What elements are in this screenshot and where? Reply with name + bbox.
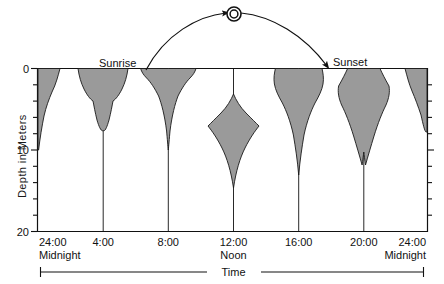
x-tick-label: 24:00 [398,236,426,248]
profile-1200 [208,94,259,188]
x-sublabel-noon: Noon [220,249,246,261]
sunrise-arc-segment [146,13,226,70]
x-tick-label: 4:00 [92,236,113,248]
sunset-label: Sunset [333,56,367,68]
x-sublabel-midnight-left: Midnight [39,249,81,261]
x-tick-label: 24:00 [39,236,67,248]
x-tick-label: 12:00 [220,236,248,248]
sunrise-label: Sunrise [99,57,136,69]
profile-0800 [141,69,196,151]
x-tick-label: 8:00 [158,236,179,248]
profile-2000 [338,69,389,166]
sunset-arc-segment [241,13,327,66]
y-axis-title: Depth in Meters [16,114,28,198]
x-axis-title: Time [221,266,245,278]
sun-arc-group [146,7,327,70]
x-tick-label: 20:00 [350,236,378,248]
x-sub-labels: Midnight Noon Midnight [39,249,426,261]
y-tick-label: 0 [23,63,29,75]
daylight-labels: Sunrise Sunset [99,56,367,69]
y-tick-label: 20 [17,226,29,238]
profile-2400-right [405,69,427,133]
x-sublabel-midnight-right: Midnight [384,249,426,261]
x-tick-label: 16:00 [285,236,313,248]
vertical-migration-chart: 0 10 20 [0,0,444,284]
sun-icon [227,7,241,21]
profile-1600 [274,69,323,176]
profile-2400-left [38,69,60,151]
x-tick-labels: 24:00 4:00 8:00 12:00 16:00 20:00 24:00 [39,236,426,248]
profile-0400 [78,69,128,131]
depth-profiles [38,69,427,189]
